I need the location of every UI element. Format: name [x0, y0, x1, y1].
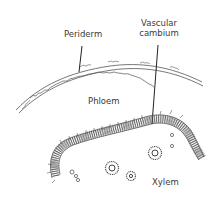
vessel-small-1 [127, 172, 136, 181]
vessel-tiny-5 [170, 144, 173, 147]
vascular-cambium-leader-line [152, 45, 158, 124]
periderm-leader-line [79, 46, 82, 72]
vascular-cambium-label-line2: cambium [136, 28, 182, 38]
vessel-large-2 [149, 147, 162, 160]
vascular-cambium-label-line1: Vascular [136, 18, 182, 28]
vessel-tiny-1 [70, 170, 74, 174]
vessel-tiny-3 [76, 178, 79, 181]
phloem-label: Phloem [88, 96, 120, 106]
vascular-cambium-band [47, 110, 204, 183]
vessel-large-1 [106, 162, 119, 175]
periderm-label: Periderm [64, 29, 102, 39]
vessel-tiny-4 [170, 133, 173, 136]
xylem-label: Xylem [152, 177, 179, 187]
vascular-cambium-label: Vascular cambium [136, 18, 182, 38]
diagram-drawing [0, 0, 221, 222]
stem-cross-section-diagram: Periderm Vascular cambium Phloem Xylem [0, 0, 221, 222]
vessel-tiny-2 [74, 174, 77, 177]
